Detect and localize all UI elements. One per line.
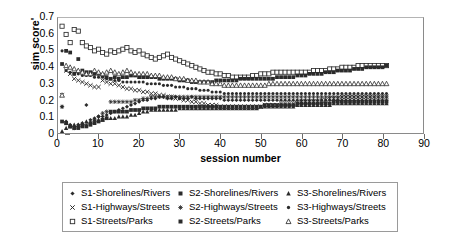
x-tick-mark: [383, 134, 384, 139]
x-tick-mark: [98, 134, 99, 139]
legend-label: S2-Streets/Parks: [189, 216, 261, 226]
x-tick-mark: [302, 134, 303, 139]
x-axis-title: session number: [57, 152, 424, 164]
star-icon: [176, 203, 185, 212]
legend-entry[interactable]: S2-Highways/Streets: [176, 202, 284, 212]
legend-label: S1-Shorelines/Rivers: [81, 188, 170, 198]
legend-entry[interactable]: S3-Streets/Parks: [284, 216, 392, 226]
chart-screenshot: sim score' 0.70.60.50.40.30.20.10 010203…: [0, 0, 465, 244]
legend-entry[interactable]: S3-Highways/Streets: [284, 202, 392, 212]
x-tick-mark: [179, 134, 180, 139]
plot-area: [57, 17, 424, 134]
legend-label: S1-Highways/Streets: [81, 202, 170, 212]
legend-entry[interactable]: S2-Shorelines/Rivers: [176, 188, 284, 198]
legend-label: S3-Streets/Parks: [297, 216, 369, 226]
filled-square-icon: [176, 189, 185, 198]
x-tick-mark: [424, 134, 425, 139]
legend-entry[interactable]: S1-Highways/Streets: [68, 202, 176, 212]
x-tick-mark: [139, 134, 140, 139]
legend-entry[interactable]: S1-Shorelines/Rivers: [68, 188, 176, 198]
filled-diamond-icon: [68, 189, 77, 198]
open-square-icon: [68, 217, 77, 226]
data-markers-layer: [58, 18, 423, 133]
legend-label: S3-Highways/Streets: [297, 202, 386, 212]
scatter-chart: sim score' 0.70.60.50.40.30.20.10 010203…: [0, 0, 465, 175]
x-tick-mark: [342, 134, 343, 139]
x-tick-mark: [57, 134, 58, 139]
x-tick-mark: [220, 134, 221, 139]
cross-x-icon: [68, 203, 77, 212]
legend-label: S1-Streets/Parks: [81, 216, 153, 226]
legend-entry[interactable]: S1-Streets/Parks: [68, 216, 176, 226]
filled-triangle-icon: [284, 189, 293, 198]
legend-entry[interactable]: S2-Streets/Parks: [176, 216, 284, 226]
chart-legend: S1-Shorelines/RiversS2-Shorelines/Rivers…: [62, 182, 398, 232]
filled-square-icon: [176, 217, 185, 226]
x-tick-mark: [261, 134, 262, 139]
legend-grid: S1-Shorelines/RiversS2-Shorelines/Rivers…: [68, 186, 392, 228]
legend-label: S3-Shorelines/Rivers: [297, 188, 386, 198]
open-triangle-icon: [284, 217, 293, 226]
legend-label: S2-Shorelines/Rivers: [189, 188, 278, 198]
small-dot-icon: [284, 203, 293, 212]
legend-entry[interactable]: S3-Shorelines/Rivers: [284, 188, 392, 198]
legend-label: S2-Highways/Streets: [189, 202, 278, 212]
